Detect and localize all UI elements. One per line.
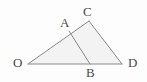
- vertex-label-O: O: [13, 56, 22, 69]
- vertex-label-C: C: [83, 5, 92, 18]
- figure-canvas: [0, 0, 147, 82]
- geometry-figure: O A C B D: [0, 0, 147, 82]
- vertex-label-A: A: [60, 16, 69, 29]
- vertex-label-D: D: [128, 56, 137, 69]
- triangle-OCD-fill: [28, 21, 122, 64]
- vertex-label-B: B: [86, 66, 95, 79]
